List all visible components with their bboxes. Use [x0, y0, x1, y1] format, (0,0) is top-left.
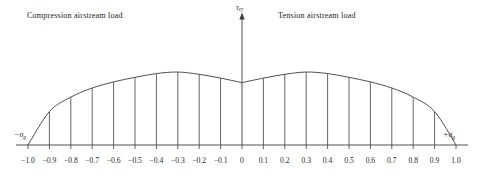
y-axis-arrowhead	[239, 13, 244, 20]
x-axis-tick-label: −0.7	[85, 156, 99, 165]
axis-group	[16, 13, 468, 146]
x-axis-tick-label: −0.4	[150, 156, 164, 165]
x-axis-tick-label: 0.4	[323, 156, 333, 165]
stress-distribution-figure: Compression airstream load Tension airst…	[0, 0, 482, 180]
x-axis-negative-subscript: g	[23, 134, 26, 140]
x-axis-tick-label: −0.6	[107, 156, 121, 165]
x-axis-tick-label: −0.8	[64, 156, 78, 165]
x-axis-tick-label: −0.3	[171, 156, 185, 165]
x-axis-tick-label: 0.7	[387, 156, 397, 165]
x-axis-tick-label: 0.5	[344, 156, 354, 165]
y-axis-subscript: cy	[239, 6, 244, 12]
compression-load-label: Compression airstream load	[27, 11, 123, 20]
x-axis-tick-label: −0.2	[192, 156, 206, 165]
y-axis-label: τcy	[236, 3, 243, 12]
x-axis-positive-symbol: +σ	[443, 130, 452, 139]
x-axis-negative-symbol: −σ	[14, 130, 23, 139]
x-axis-positive-subscript: g	[452, 134, 455, 140]
tension-load-label: Tension airstream load	[278, 11, 356, 20]
x-axis-tick-label: 0.2	[280, 156, 290, 165]
x-axis-tick-label: −1.0	[21, 156, 35, 165]
x-axis-tick-label: 0.1	[259, 156, 269, 165]
x-axis-tick-label: −0.9	[43, 156, 57, 165]
x-axis-tick-label: 0	[240, 156, 244, 165]
plot-area	[0, 0, 482, 180]
axis-tick-marks-group	[28, 145, 456, 149]
x-axis-tick-label: 0.8	[408, 156, 418, 165]
x-axis-tick-label: 0.3	[301, 156, 311, 165]
x-axis-tick-label: 0.6	[366, 156, 376, 165]
x-axis-tick-label: −0.5	[128, 156, 142, 165]
x-axis-positive-label: +σg	[443, 130, 455, 140]
x-axis-tick-label: −0.1	[214, 156, 228, 165]
x-axis-tick-label: 0.9	[430, 156, 440, 165]
x-axis-tick-label: 1.0	[451, 156, 461, 165]
x-axis-negative-label: −σg	[14, 130, 26, 140]
